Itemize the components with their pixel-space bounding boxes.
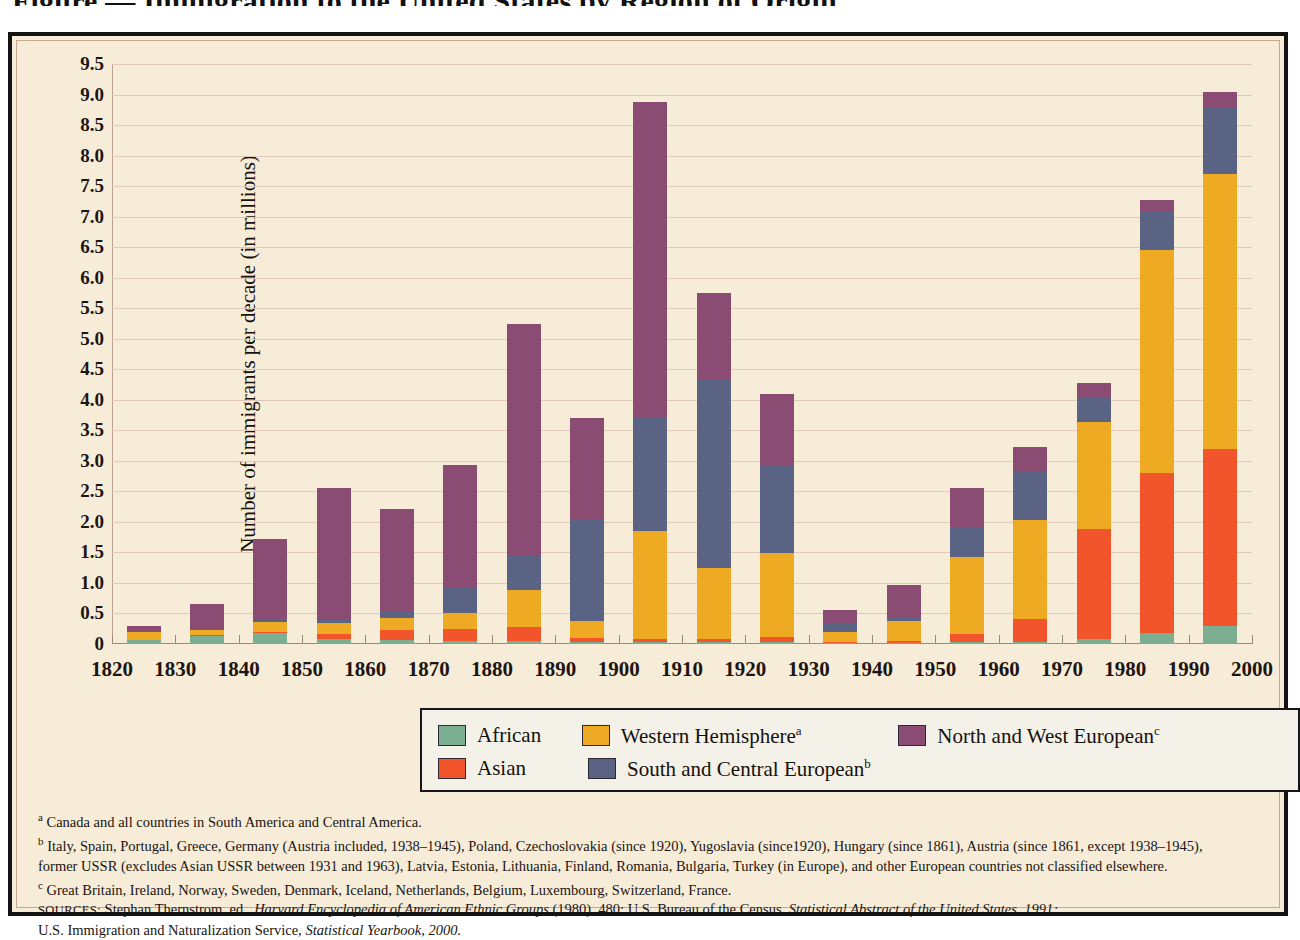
legend-african-label: African <box>477 723 541 748</box>
x-tick <box>809 635 810 644</box>
bar-1991-2000[interactable] <box>1203 92 1237 645</box>
bar-1841-1850[interactable] <box>253 539 287 644</box>
x-tick-label: 1860 <box>344 657 386 682</box>
bar-segment-western-hemisphere <box>317 623 351 633</box>
bar-segment-african <box>823 643 857 644</box>
bar-segment-asian <box>1140 473 1174 633</box>
gridline <box>112 369 1252 370</box>
bar-1861-1870[interactable] <box>380 509 414 645</box>
bar-segment-african <box>760 642 794 644</box>
sources-label: SOURCES: <box>38 903 101 917</box>
bar-segment-north-and-west-european <box>950 488 984 527</box>
bar-segment-north-and-west-european <box>823 610 857 623</box>
bar-segment-north-and-west-european <box>317 488 351 620</box>
y-tick-label: 5.0 <box>0 328 104 350</box>
bar-segment-african <box>380 640 414 644</box>
legend-asian[interactable]: Asian <box>438 756 588 781</box>
y-tick-label: 7.5 <box>0 175 104 197</box>
bar-1881-1890[interactable] <box>507 324 541 645</box>
bar-1851-1860[interactable] <box>317 488 351 644</box>
y-tick-label: 6.5 <box>0 236 104 258</box>
x-tick <box>935 635 936 644</box>
legend-north-west-european[interactable]: North and West Europeanc <box>898 723 1282 749</box>
bar-segment-african <box>317 639 351 644</box>
legend-north-west-european-label: North and West Europeanc <box>937 723 1159 749</box>
bar-segment-african <box>950 642 984 644</box>
note-b-line2: former USSR (excludes Asian USSR between… <box>38 857 1276 877</box>
bar-segment-african <box>1077 639 1111 644</box>
legend-asian-swatch <box>438 758 466 779</box>
bar-1831-1840[interactable] <box>190 604 224 644</box>
bar-segment-south-and-central-european <box>697 379 731 568</box>
y-tick-label: 9.0 <box>0 84 104 106</box>
y-tick-label: 9.5 <box>0 53 104 75</box>
x-tick <box>1189 635 1190 644</box>
bar-segment-western-hemisphere <box>823 632 857 642</box>
bar-segment-western-hemisphere <box>760 553 794 637</box>
bar-segment-south-and-central-european <box>950 527 984 556</box>
legend-south-central-european-superscript: b <box>864 756 871 771</box>
x-tick <box>745 635 746 644</box>
legend-western-hemisphere[interactable]: Western Hemispherea <box>582 723 899 749</box>
gridline <box>112 156 1252 157</box>
figure-title: Figure — Immigration to the United State… <box>12 0 837 6</box>
bar-segment-south-and-central-european <box>1140 211 1174 251</box>
bar-segment-western-hemisphere <box>570 621 604 637</box>
bar-segment-south-and-central-european <box>1203 107 1237 174</box>
sources-italic-3: Statistical Yearbook, 2000. <box>305 922 461 938</box>
x-tick <box>1252 635 1253 644</box>
bar-segment-western-hemisphere <box>127 632 161 641</box>
sources-italic-1: Harvard Encyclopedia of American Ethnic … <box>254 901 549 917</box>
bar-1981-1990[interactable] <box>1140 200 1174 644</box>
bar-segment-north-and-west-european <box>443 465 477 589</box>
y-tick-label: 7.0 <box>0 206 104 228</box>
bar-1891-1900[interactable] <box>570 418 604 644</box>
bar-segment-north-and-west-european <box>887 585 921 617</box>
x-tick <box>682 635 683 644</box>
legend-south-central-european[interactable]: South and Central Europeanb <box>588 756 918 782</box>
x-tick-label: 2000 <box>1231 657 1273 682</box>
bar-1821-1830[interactable] <box>127 626 161 644</box>
y-tick-label: 2.5 <box>0 480 104 502</box>
bar-1871-1880[interactable] <box>443 465 477 644</box>
bar-segment-north-and-west-european <box>1140 200 1174 210</box>
bar-1971-1980[interactable] <box>1077 383 1111 644</box>
y-tick-label: 4.5 <box>0 358 104 380</box>
x-tick <box>619 635 620 644</box>
bar-1941-1950[interactable] <box>887 585 921 644</box>
bar-1901-1910[interactable] <box>633 102 667 644</box>
x-tick <box>492 635 493 644</box>
bar-segment-asian <box>1077 529 1111 639</box>
bar-1911-1920[interactable] <box>697 293 731 644</box>
bar-segment-western-hemisphere <box>697 568 731 638</box>
gridline <box>112 278 1252 279</box>
bar-segment-south-and-central-european <box>570 519 604 622</box>
y-tick-label: 6.0 <box>0 267 104 289</box>
bar-segment-south-and-central-european <box>633 418 667 531</box>
bar-segment-south-and-central-european <box>1013 471 1047 520</box>
x-tick-label: 1980 <box>1104 657 1146 682</box>
legend-african[interactable]: African <box>438 723 582 748</box>
legend-north-west-european-swatch <box>898 725 926 746</box>
sources-text-2a: U.S. Immigration and Naturalization Serv… <box>38 922 302 938</box>
x-tick <box>1062 635 1063 644</box>
bar-segment-african <box>570 642 604 644</box>
x-tick-label: 1820 <box>91 657 133 682</box>
note-b-text-line2: former USSR (excludes Asian USSR between… <box>38 858 1168 874</box>
bar-1961-1970[interactable] <box>1013 447 1047 644</box>
bar-segment-western-hemisphere <box>633 531 667 639</box>
x-tick-label: 1910 <box>661 657 703 682</box>
x-tick-label: 1940 <box>851 657 893 682</box>
legend-row-2: AsianSouth and Central Europeanb <box>438 752 1282 785</box>
bar-1931-1940[interactable] <box>823 610 857 644</box>
bar-1921-1930[interactable] <box>760 394 794 644</box>
gridline <box>112 125 1252 126</box>
x-tick-label: 1950 <box>914 657 956 682</box>
y-tick-label: 1.5 <box>0 541 104 563</box>
bar-1951-1960[interactable] <box>950 488 984 644</box>
x-tick-label: 1970 <box>1041 657 1083 682</box>
x-tick-label: 1930 <box>788 657 830 682</box>
legend-south-central-european-label: South and Central Europeanb <box>627 756 871 782</box>
x-tick-label: 1850 <box>281 657 323 682</box>
sources-text-1a: Stephan Thernstrom, ed., <box>105 901 251 917</box>
